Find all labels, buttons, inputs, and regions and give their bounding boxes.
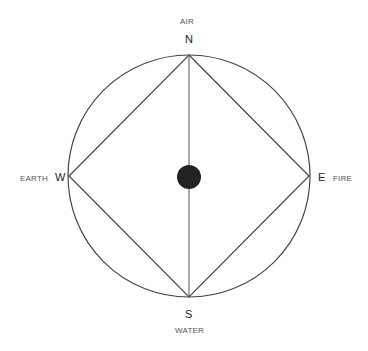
center-dot (177, 165, 201, 189)
letter-south: S (185, 308, 192, 320)
letter-north: N (185, 33, 193, 45)
label-fire: FIRE (333, 174, 352, 183)
label-earth: EARTH (20, 174, 48, 183)
label-water: WATER (175, 326, 204, 335)
letter-east: E (318, 171, 325, 183)
label-air: AIR (180, 17, 194, 26)
letter-west: W (55, 171, 65, 183)
